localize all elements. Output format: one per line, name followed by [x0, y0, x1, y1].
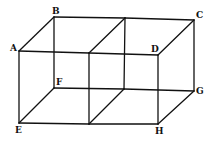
edge-m3-m4 [89, 89, 124, 124]
edge-e-m3 [19, 123, 89, 124]
edge-a-b [19, 17, 54, 51]
edge-m1-d [89, 53, 158, 55]
edge-m4-g [124, 89, 194, 91]
edge-d-c [158, 20, 194, 55]
vertex-label-d: D [151, 44, 159, 54]
edge-m1-m2 [89, 18, 125, 53]
vertex-label-f: F [56, 77, 63, 87]
vertex-label-a: A [9, 43, 18, 53]
edge-b-m2 [54, 17, 125, 18]
diagram-edges [19, 17, 194, 124]
edge-h-g [158, 91, 194, 124]
vertex-label-c: C [196, 10, 203, 20]
vertex-label-h: H [155, 126, 164, 136]
edge-f-m4 [54, 88, 124, 89]
vertex-label-g: G [196, 86, 204, 96]
edge-m2-m4 [124, 18, 125, 89]
double-cuboid-diagram: A B C D E F G H [0, 0, 212, 144]
edge-e-f [19, 88, 54, 123]
vertex-labels: A B C D E F G H [9, 6, 204, 136]
vertex-label-e: E [15, 125, 22, 135]
vertex-label-b: B [52, 6, 60, 16]
edge-m2-c [125, 18, 194, 20]
